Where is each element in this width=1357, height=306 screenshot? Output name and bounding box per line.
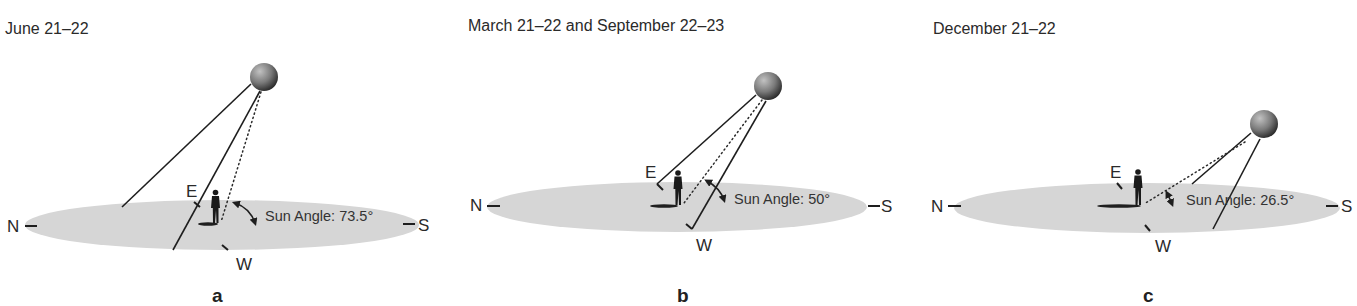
compass-west-label: W [236,255,252,274]
panel-title: December 21–22 [933,20,1056,37]
panel-label: a [212,285,223,306]
sun-angle-label: Sun Angle: 26.5° [1186,192,1294,208]
panel-label: b [677,285,689,306]
compass-west-label: W [696,236,712,255]
compass-east-label: E [186,182,197,201]
sun-icon [754,72,782,100]
compass-east-label: E [645,163,656,182]
person-shadow [1097,204,1141,208]
compass-north-label: N [7,217,19,236]
compass-north-label: N [931,197,943,216]
sun-icon [1250,110,1278,138]
compass-west-label: W [1155,237,1171,256]
panel-b: March 21–22 and September 22–23 N S E W … [468,17,892,306]
panel-a: June 21–22 N S E W Sun Angle: 73.5° a [5,20,429,306]
panel-label: c [1143,285,1154,306]
compass-east-label: E [1110,163,1121,182]
panel-c: December 21–22 N S E W Sun Angle: 26.5° … [931,20,1352,306]
sun-path-ray-east [1192,133,1251,184]
person-shadow [650,204,678,208]
compass-south-label: S [881,197,892,216]
sun-angle-diagram: June 21–22 N S E W Sun Angle: 73.5° a Ma… [0,0,1357,306]
compass-south-label: S [1341,197,1352,216]
compass-north-label: N [470,196,482,215]
panel-title: March 21–22 and September 22–23 [468,17,724,34]
sun-icon [250,63,278,91]
compass-south-label: S [418,216,429,235]
sun-angle-label: Sun Angle: 50° [734,191,830,207]
sun-angle-label: Sun Angle: 73.5° [265,208,373,224]
sun-path-ray-east [657,95,756,184]
panel-title: June 21–22 [5,20,89,37]
ground-plane [954,183,1340,233]
